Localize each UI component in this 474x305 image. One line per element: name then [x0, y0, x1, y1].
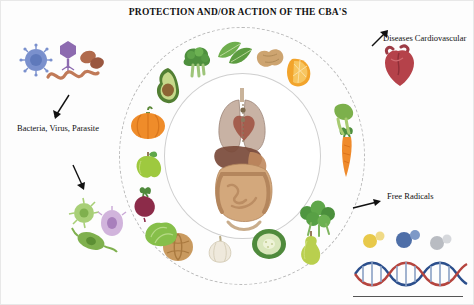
- label-cardiovascular: Diseases Cardiovascular: [383, 33, 471, 44]
- pathogen-spirochete-bacterium: [45, 63, 101, 93]
- food-pear: [295, 227, 327, 271]
- food-zucchini: [249, 225, 289, 265]
- arrow-to-pathogens-lower: [67, 163, 93, 201]
- label-pathogens: Bacteria, Virus, Parasite: [17, 123, 107, 134]
- food-spinach-leaves: [215, 37, 255, 71]
- pathogen-flagellate-parasite: [71, 227, 119, 261]
- page-title: PROTECTION AND/OR ACTION OF THE CBA'S: [1, 7, 474, 17]
- bottom-divider: [353, 296, 463, 297]
- radical-molecule-grey: [427, 231, 453, 259]
- arrow-to-free-radicals: [351, 197, 385, 217]
- radical-molecule-yellow: [361, 229, 387, 257]
- food-pumpkin: [129, 105, 167, 145]
- figure-canvas: PROTECTION AND/OR ACTION OF THE CBA'S: [0, 0, 474, 305]
- food-orange-slice: [285, 55, 315, 93]
- food-beetroot: [127, 185, 161, 227]
- food-garlic-bulb: [203, 233, 237, 271]
- human-torso-organs: [198, 86, 290, 234]
- radical-molecule-blue: [393, 227, 421, 257]
- food-green-apple: [131, 147, 165, 185]
- label-free-radicals: Free Radicals: [387, 191, 467, 202]
- food-avocado: [149, 65, 187, 109]
- food-ginger-root: [253, 45, 287, 75]
- dna-double-helix: [353, 257, 469, 295]
- food-celery-stalk: [327, 101, 361, 139]
